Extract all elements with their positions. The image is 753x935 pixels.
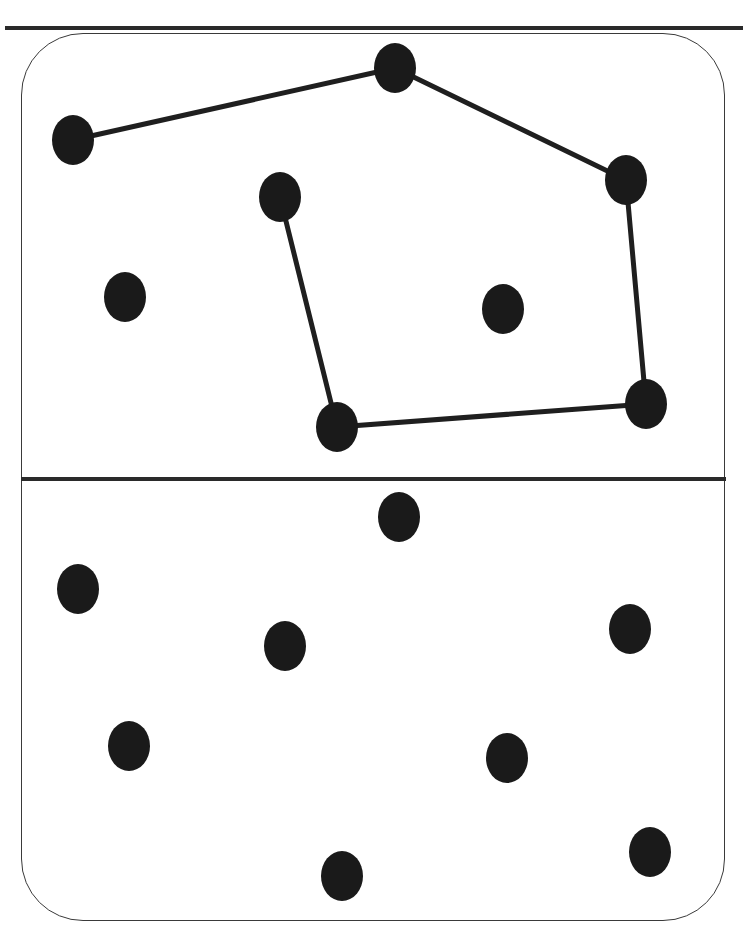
diagram-canvas <box>0 0 753 935</box>
top-dot-a <box>52 115 94 165</box>
top-dot-d <box>605 155 647 205</box>
top-panel-connecting-path <box>73 68 646 427</box>
bottom-dot-h <box>321 851 363 901</box>
bottom-dot-c <box>264 621 306 671</box>
bottom-dot-f <box>629 827 671 877</box>
top-dot-h <box>316 402 358 452</box>
bottom-dot-a <box>57 564 99 614</box>
bottom-panel-dots <box>57 492 671 901</box>
top-dot-e <box>482 284 524 334</box>
bottom-dot-e <box>486 733 528 783</box>
top-dot-b <box>374 43 416 93</box>
top-dot-g <box>104 272 146 322</box>
top-dot-f <box>625 379 667 429</box>
bottom-dot-d <box>609 604 651 654</box>
top-edge-path <box>73 68 646 427</box>
top-dot-c <box>259 172 301 222</box>
bottom-dot-g <box>108 721 150 771</box>
top-panel-dots <box>52 43 667 452</box>
bottom-dot-b <box>378 492 420 542</box>
